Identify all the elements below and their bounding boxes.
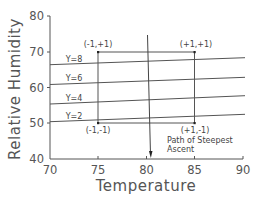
point-label-plus-plus: (+1,+1)	[180, 40, 212, 49]
x-tick-80: 80	[139, 163, 154, 177]
x-axis-title: Temperature	[95, 177, 197, 195]
x-tick-75: 75	[91, 163, 106, 177]
y-axis-title: Relative Humidity	[6, 18, 24, 160]
x-tick-70: 70	[43, 163, 58, 177]
point-label-plus-minus: (+1,-1)	[181, 126, 210, 135]
design-points	[97, 51, 196, 124]
y-tick-labels: 80 70 60 50 40	[29, 9, 44, 166]
label-y2: Y=2	[65, 112, 83, 121]
label-y4: Y=4	[65, 94, 83, 103]
y-tick-80: 80	[29, 9, 44, 23]
steepest-ascent-path	[148, 35, 153, 158]
point-label-minus-plus: (-1,+1)	[84, 40, 113, 49]
x-tick-90: 90	[236, 163, 251, 177]
y-tick-50: 50	[29, 116, 44, 130]
label-y6: Y=6	[65, 74, 83, 83]
label-y8: Y=8	[65, 55, 83, 64]
x-tick-85: 85	[187, 163, 202, 177]
point-label-minus-minus: (-1,-1)	[86, 126, 111, 135]
y-tick-60: 60	[29, 81, 44, 95]
annotation-line-2: Ascent	[167, 145, 194, 154]
arrow-head-icon	[149, 151, 153, 158]
y-tick-70: 70	[29, 45, 44, 59]
annotation-line-1: Path of Steepest	[167, 136, 233, 145]
contour-labels: Y=8 Y=6 Y=4 Y=2	[65, 55, 83, 121]
x-tick-labels: 70 75 80 85 90	[43, 163, 251, 177]
response-surface-chart: 80 70 60 50 40 70 75 80 85 90 Temperatur…	[0, 0, 262, 204]
